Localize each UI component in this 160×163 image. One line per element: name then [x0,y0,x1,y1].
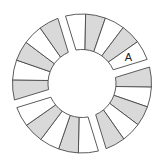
bottom-group-segment-1-shaded [12,80,48,100]
segmented-ring: A [0,0,160,163]
segment-label: A [125,51,133,63]
right-lower-group-segment-1-unshaded [78,117,98,153]
ring-diagram: A [0,0,160,163]
ring-labels: A [125,51,133,63]
top-right-group-segment-1-shaded [115,67,151,87]
ring-segments [12,14,151,153]
left-group-segment-1-unshaded [66,14,86,50]
